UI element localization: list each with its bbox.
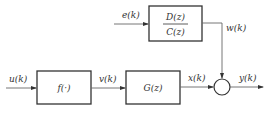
nonlinear-block: f(·) (37, 71, 91, 104)
block-numerator: D(z) (165, 12, 185, 22)
signal-label-e: e(k) (122, 10, 140, 20)
block-label-g: G(z) (144, 83, 163, 93)
signal-label-u: u(k) (9, 74, 28, 84)
linear-block: G(z) (126, 71, 180, 104)
signal-label-y: y(k) (238, 73, 257, 83)
block-label-f: f(·) (56, 83, 71, 93)
signal-label-x: x(k) (188, 73, 206, 83)
signal-label-w: w(k) (226, 23, 247, 33)
summing-junction (214, 79, 230, 95)
block-diagram: e(k) D(z) C(z) w(k) u(k) f(·) v(k) G(z) … (0, 0, 272, 114)
signal-label-v: v(k) (99, 74, 117, 84)
noise-filter-block: D(z) C(z) (149, 6, 202, 41)
block-denominator: C(z) (166, 27, 185, 37)
noise-output-arrow (202, 23, 222, 78)
